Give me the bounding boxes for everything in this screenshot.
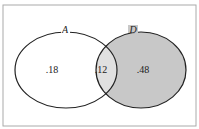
region-d-only: .48 <box>137 64 150 75</box>
region-intersection: .12 <box>95 64 108 75</box>
set-d-label: D <box>128 24 137 35</box>
region-a-only: .18 <box>46 64 59 75</box>
set-a-label: A <box>61 24 69 35</box>
venn-diagram: A D .18 .12 .48 <box>0 0 199 129</box>
